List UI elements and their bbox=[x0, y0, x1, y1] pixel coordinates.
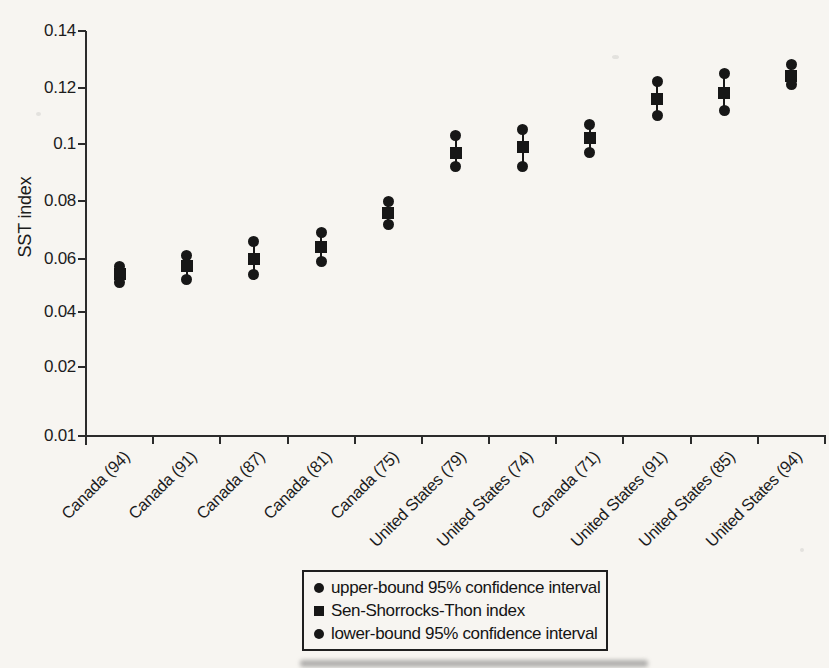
scan-speck bbox=[36, 112, 41, 116]
y-tick-label: 0.04 bbox=[44, 302, 76, 322]
x-axis-tick bbox=[219, 435, 221, 444]
y-axis-tick bbox=[78, 366, 86, 368]
x-axis-tick bbox=[488, 435, 490, 444]
y-tick-label: 0.02 bbox=[44, 357, 76, 377]
y-axis-tick bbox=[78, 200, 86, 202]
x-category-label-text: Canada (87) bbox=[192, 447, 268, 523]
x-axis-tick bbox=[555, 435, 557, 444]
y-tick-label: 0.08 bbox=[44, 191, 76, 211]
upper-bound-marker bbox=[719, 68, 730, 79]
legend-entry-lower-bound: lower-bound 95% confidence interval bbox=[314, 622, 606, 645]
lower-bound-marker bbox=[652, 110, 663, 121]
upper-bound-marker bbox=[248, 236, 259, 247]
filled-circle-icon bbox=[314, 629, 324, 639]
sst-index-marker bbox=[718, 87, 730, 99]
y-tick-label: 0.1 bbox=[53, 134, 76, 154]
y-axis-title: SST index bbox=[15, 177, 36, 258]
lower-bound-marker bbox=[383, 219, 394, 230]
x-axis-tick bbox=[824, 435, 826, 444]
lower-bound-marker bbox=[517, 161, 528, 172]
scan-speck bbox=[800, 548, 804, 552]
legend-label: upper-bound 95% confidence interval bbox=[331, 578, 600, 598]
x-axis-tick bbox=[287, 435, 289, 444]
upper-bound-marker bbox=[786, 59, 797, 70]
sst-index-marker bbox=[248, 253, 260, 265]
x-axis-tick bbox=[421, 435, 423, 444]
x-axis-tick bbox=[622, 435, 624, 444]
lower-bound-marker bbox=[786, 79, 797, 90]
legend-entry-sst-index: Sen-Shorrocks-Thon index bbox=[314, 599, 606, 622]
sst-index-marker bbox=[181, 260, 193, 272]
upper-bound-marker bbox=[450, 130, 461, 141]
y-tick-label: 0.01 bbox=[44, 426, 76, 446]
x-axis-tick bbox=[690, 435, 692, 444]
x-axis-tick bbox=[152, 435, 154, 444]
sst-index-marker bbox=[584, 132, 596, 144]
lower-bound-marker bbox=[719, 105, 730, 116]
lower-bound-marker bbox=[114, 277, 125, 288]
y-axis-tick bbox=[78, 258, 86, 260]
scan-speck bbox=[612, 55, 619, 59]
upper-bound-marker bbox=[584, 119, 595, 130]
lower-bound-marker bbox=[584, 147, 595, 158]
upper-bound-marker bbox=[652, 76, 663, 87]
filled-circle-icon bbox=[314, 583, 324, 593]
lower-bound-marker bbox=[316, 256, 327, 267]
legend-label: Sen-Shorrocks-Thon index bbox=[331, 601, 525, 621]
y-axis-tick bbox=[78, 143, 86, 145]
sst-index-marker bbox=[450, 147, 462, 159]
sst-index-marker bbox=[517, 141, 529, 153]
sst-index-marker bbox=[651, 93, 663, 105]
sst-index-marker bbox=[382, 207, 394, 219]
y-tick-label: 0.12 bbox=[44, 78, 76, 98]
upper-bound-marker bbox=[316, 227, 327, 238]
x-axis-tick bbox=[85, 435, 87, 444]
x-category-label-text: Canada (91) bbox=[125, 447, 201, 523]
y-axis-line bbox=[85, 31, 87, 445]
y-axis-tick bbox=[78, 87, 86, 89]
legend-box: upper-bound 95% confidence interval Sen-… bbox=[302, 570, 608, 651]
upper-bound-marker bbox=[517, 124, 528, 135]
legend-entry-upper-bound: upper-bound 95% confidence interval bbox=[314, 576, 606, 599]
lower-bound-marker bbox=[450, 161, 461, 172]
x-axis-tick bbox=[354, 435, 356, 444]
x-category-label-text: Canada (94) bbox=[58, 447, 134, 523]
x-axis-line bbox=[85, 435, 826, 437]
page-scan-smudge bbox=[300, 660, 648, 667]
filled-square-icon bbox=[314, 606, 324, 616]
sst-index-chart: SST index 0.010.020.040.060.080.10.120.1… bbox=[0, 0, 829, 668]
lower-bound-marker bbox=[181, 274, 192, 285]
x-category-label-text: Canada (81) bbox=[259, 447, 335, 523]
y-tick-label: 0.06 bbox=[44, 249, 76, 269]
y-axis-tick bbox=[78, 30, 86, 32]
legend-label: lower-bound 95% confidence interval bbox=[331, 624, 598, 644]
x-axis-tick bbox=[757, 435, 759, 444]
sst-index-marker bbox=[315, 241, 327, 253]
y-tick-label: 0.14 bbox=[44, 21, 76, 41]
lower-bound-marker bbox=[248, 269, 259, 280]
y-axis-tick bbox=[78, 311, 86, 313]
upper-bound-marker bbox=[383, 196, 394, 207]
